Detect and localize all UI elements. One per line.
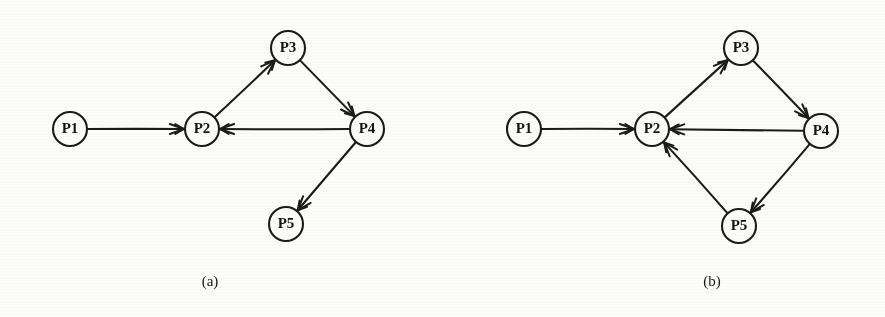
node-p5[interactable]: P5 (269, 207, 303, 241)
edge-p2-to-p3 (665, 60, 727, 117)
panel-b: P1P2P3P4P5(b) (507, 31, 838, 290)
edge-line (670, 129, 803, 131)
edge-p4-to-p5 (298, 143, 356, 211)
node-label: P5 (278, 215, 295, 231)
node-label: P4 (359, 120, 376, 136)
edge-p3-to-p4 (301, 61, 355, 116)
edge-p2-to-p3 (215, 60, 275, 116)
node-label: P4 (813, 122, 830, 138)
edge-p5-to-p2 (664, 142, 727, 212)
node-p2[interactable]: P2 (185, 112, 219, 146)
edge-line (664, 142, 727, 212)
node-label: P2 (644, 120, 661, 136)
panel-caption: (b) (703, 273, 721, 290)
edge-p4-to-p2 (670, 124, 803, 134)
edge-line (298, 143, 356, 211)
edge-p3-to-p4 (753, 61, 808, 118)
panel-a: P1P2P3P4P5(a) (53, 31, 384, 290)
edge-line (301, 61, 355, 116)
node-p5[interactable]: P5 (722, 209, 756, 243)
node-p1[interactable]: P1 (507, 112, 541, 146)
edge-p4-to-p2 (220, 124, 349, 134)
node-p2[interactable]: P2 (635, 112, 669, 146)
edge-p4-to-p5 (751, 145, 809, 213)
node-label: P2 (194, 120, 211, 136)
node-p4[interactable]: P4 (350, 112, 384, 146)
node-label: P1 (516, 120, 533, 136)
edge-p1-to-p2 (88, 124, 184, 134)
edge-p1-to-p2 (542, 124, 634, 134)
edge-line (753, 61, 808, 118)
edge-line (665, 60, 727, 117)
node-p3[interactable]: P3 (271, 31, 305, 65)
node-p4[interactable]: P4 (804, 114, 838, 148)
node-label: P1 (62, 120, 79, 136)
process-graph-figure: P1P2P3P4P5(a)P1P2P3P4P5(b) (0, 0, 885, 317)
node-label: P3 (280, 39, 297, 55)
figure-canvas: P1P2P3P4P5(a)P1P2P3P4P5(b) (0, 0, 885, 317)
node-p3[interactable]: P3 (724, 31, 758, 65)
node-p1[interactable]: P1 (53, 112, 87, 146)
node-label: P5 (731, 217, 748, 233)
panel-caption: (a) (202, 273, 219, 290)
edge-line (215, 60, 275, 116)
node-label: P3 (733, 39, 750, 55)
edge-line (751, 145, 809, 213)
